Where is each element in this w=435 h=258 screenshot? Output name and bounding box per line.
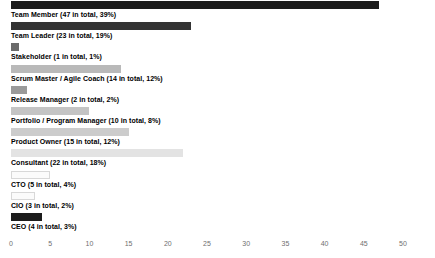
x-axis-tick-label: 25 bbox=[203, 240, 211, 247]
x-axis-tick-label: 45 bbox=[360, 240, 368, 247]
bar bbox=[11, 128, 129, 136]
bar-label: Consultant (22 in total, 18%) bbox=[11, 158, 106, 167]
bar-row: CIO (3 in total, 2%) bbox=[11, 191, 403, 212]
bar bbox=[11, 171, 50, 179]
x-axis-tick-label: 10 bbox=[85, 240, 93, 247]
x-axis-tick-label: 40 bbox=[321, 240, 329, 247]
bar bbox=[11, 213, 42, 221]
bar bbox=[11, 107, 89, 115]
bar-label: CIO (3 in total, 2%) bbox=[11, 201, 74, 210]
bar-label: Team Leader (23 in total, 19%) bbox=[11, 31, 112, 40]
bar bbox=[11, 149, 183, 157]
plot-area: Team Member (47 in total, 39%)Team Leade… bbox=[11, 0, 403, 236]
bar bbox=[11, 86, 27, 94]
bar-label: Release Manager (2 in total, 2%) bbox=[11, 95, 119, 104]
bar-row: Stakeholder (1 in total, 1%) bbox=[11, 42, 403, 63]
bar-row: Product Owner (15 in total, 12%) bbox=[11, 127, 403, 148]
bar-label: CEO (4 in total, 3%) bbox=[11, 222, 77, 231]
bar-row: Consultant (22 in total, 18%) bbox=[11, 148, 403, 169]
x-axis-tick-label: 20 bbox=[164, 240, 172, 247]
bar-row: CEO (4 in total, 3%) bbox=[11, 212, 403, 233]
horizontal-bar-chart: Team Member (47 in total, 39%)Team Leade… bbox=[0, 0, 435, 258]
bar-row: Team Member (47 in total, 39%) bbox=[11, 0, 403, 21]
bar-row: Team Leader (23 in total, 19%) bbox=[11, 21, 403, 42]
x-axis-tick-label: 15 bbox=[125, 240, 133, 247]
x-axis-tick-label: 35 bbox=[281, 240, 289, 247]
bar bbox=[11, 192, 35, 200]
bar bbox=[11, 65, 121, 73]
bar bbox=[11, 43, 19, 51]
x-axis: 05101520253035404550 bbox=[11, 236, 403, 258]
x-axis-tick-label: 5 bbox=[48, 240, 52, 247]
bar bbox=[11, 1, 379, 9]
bar-label: Product Owner (15 in total, 12%) bbox=[11, 137, 120, 146]
x-axis-tick-label: 50 bbox=[399, 240, 407, 247]
bar-row: CTO (5 in total, 4%) bbox=[11, 170, 403, 191]
bar-label: Stakeholder (1 in total, 1%) bbox=[11, 52, 102, 61]
bar-row: Scrum Master / Agile Coach (14 in total,… bbox=[11, 64, 403, 85]
x-axis-tick-label: 0 bbox=[9, 240, 13, 247]
bar-label: Team Member (47 in total, 39%) bbox=[11, 10, 116, 19]
bar-label: Scrum Master / Agile Coach (14 in total,… bbox=[11, 74, 163, 83]
bar-row: Release Manager (2 in total, 2%) bbox=[11, 85, 403, 106]
bar-label: Portfolio / Program Manager (10 in total… bbox=[11, 116, 161, 125]
x-axis-tick-label: 30 bbox=[242, 240, 250, 247]
bar-row: Portfolio / Program Manager (10 in total… bbox=[11, 106, 403, 127]
bar bbox=[11, 22, 191, 30]
bar-label: CTO (5 in total, 4%) bbox=[11, 180, 76, 189]
